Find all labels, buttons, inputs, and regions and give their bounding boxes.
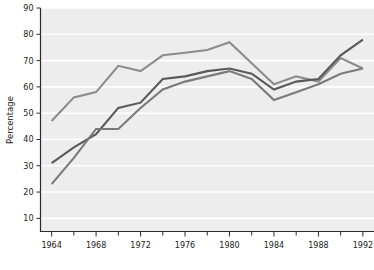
y-tick-label-70: 70 [23, 57, 33, 66]
line-chart: 102030405060708090 196419681972197619801… [0, 0, 374, 270]
x-tick-label-1992: 1992 [353, 241, 373, 250]
x-tick-label-1968: 1968 [86, 241, 106, 250]
y-tick-label-50: 50 [23, 109, 33, 118]
x-tick-label-1972: 1972 [130, 241, 150, 250]
plot-area-background [40, 8, 374, 232]
x-tick-label-1988: 1988 [308, 241, 328, 250]
x-tick-label-1976: 1976 [175, 241, 195, 250]
y-axis-title: Percentage [5, 96, 15, 144]
y-tick-label-30: 30 [23, 162, 33, 171]
y-tick-label-90: 90 [23, 4, 33, 13]
x-tick-label-1980: 1980 [219, 241, 239, 250]
x-tick-label-1964: 1964 [41, 241, 61, 250]
x-tick-label-1984: 1984 [264, 241, 284, 250]
chart-container: 102030405060708090 196419681972197619801… [0, 0, 374, 270]
y-tick-label-60: 60 [23, 83, 33, 92]
y-tick-label-10: 10 [23, 214, 33, 223]
y-tick-label-40: 40 [23, 135, 33, 144]
y-tick-label-20: 20 [23, 188, 33, 197]
y-tick-label-80: 80 [23, 30, 33, 39]
